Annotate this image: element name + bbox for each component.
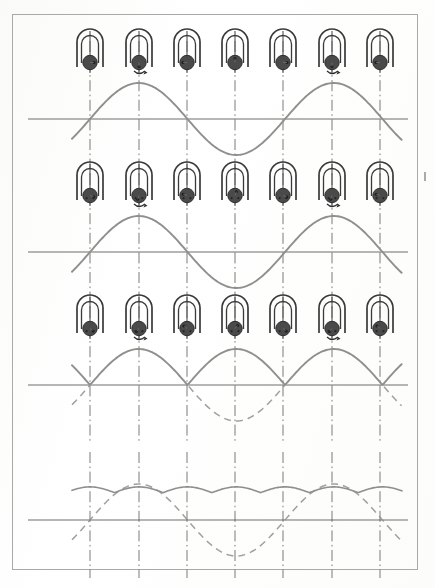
generator-armature-icon [174, 295, 200, 339]
commutator-segment-right [92, 330, 94, 332]
commutator-segment-right [141, 197, 143, 199]
commutator-segment-right [237, 330, 239, 332]
commutator-segment-left [328, 197, 330, 199]
commutator-segment-right [189, 197, 191, 199]
commutator-segment-left [376, 197, 378, 199]
suppressed-negative-wave [72, 385, 402, 421]
commutator-segment-left [376, 330, 378, 332]
generator-armature-icon [270, 162, 296, 206]
commutator-segment-left [279, 330, 281, 332]
generator-armature-icon [270, 295, 296, 339]
commutator-segment-right [334, 330, 336, 332]
waveform-row [28, 29, 408, 177]
generator-armature-icon [367, 295, 393, 339]
generator-armature-icon [319, 295, 345, 340]
commutator-segment-left [279, 197, 281, 199]
waveform-row [28, 452, 408, 578]
generator-armature-icon [319, 162, 345, 207]
commutator-segment-right [92, 197, 94, 199]
generator-armature-icon [77, 162, 103, 206]
commutator-segment-right [334, 197, 336, 199]
generator-armature-icon [222, 162, 248, 206]
generator-armature-icon [367, 29, 393, 73]
commutator-segment-right [382, 197, 384, 199]
smoothed-dc-wave [72, 487, 402, 493]
generator-armature-icon [222, 29, 248, 73]
generator-armature-icon [270, 29, 296, 73]
commutator-segment-left [135, 330, 137, 332]
commutator-segment-right [285, 197, 287, 199]
generator-armature-icon [319, 29, 345, 74]
waveform-row [28, 295, 408, 443]
commutator-segment-right [189, 330, 191, 332]
generator-armature-icon [367, 162, 393, 206]
commutator-segment-left [183, 330, 185, 332]
commutator-segment-left [86, 330, 88, 332]
generator-armature-icon [126, 295, 152, 340]
commutator-segment-left [183, 197, 185, 199]
commutator-segment-left [86, 197, 88, 199]
generator-armature-icon [174, 162, 200, 206]
generator-armature-icon [222, 295, 248, 339]
generator-armature-icon [77, 29, 103, 73]
generator-armature-icon [77, 295, 103, 339]
rectified-wave [72, 349, 402, 385]
generator-armature-icon [126, 29, 152, 74]
commutator-segment-right [237, 197, 239, 199]
commutator-segment-left [135, 197, 137, 199]
generator-armature-icon [174, 29, 200, 73]
commutator-segment-right [382, 330, 384, 332]
commutator-segment-left [231, 197, 233, 199]
generator-armature-icon [126, 162, 152, 207]
commutator-segment-left [328, 330, 330, 332]
waveform-artwork [0, 0, 435, 588]
commutator-segment-right [285, 330, 287, 332]
commutator-segment-right [141, 330, 143, 332]
waveform-row [28, 162, 408, 310]
figure-page [0, 0, 435, 588]
commutator-segment-left [231, 330, 233, 332]
